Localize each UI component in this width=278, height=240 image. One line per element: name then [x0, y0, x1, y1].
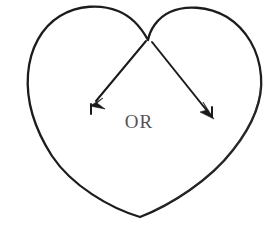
right-arrow-shaft [152, 42, 208, 112]
or-label: OR [0, 111, 278, 133]
heart-outline-sketch-overstroke [155, 80, 261, 210]
left-arrow-shaft [96, 41, 146, 101]
